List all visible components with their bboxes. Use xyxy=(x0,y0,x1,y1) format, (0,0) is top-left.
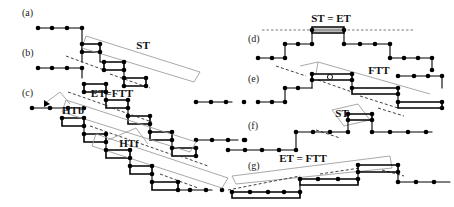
node-dot xyxy=(266,190,271,195)
node-dot xyxy=(388,56,393,61)
panel-f-dash-1 xyxy=(378,108,404,116)
node-dot xyxy=(356,177,361,182)
node-dot xyxy=(412,74,417,79)
node-dot xyxy=(370,112,375,117)
node-dot xyxy=(396,163,401,168)
node-dot xyxy=(242,138,247,143)
node-dot xyxy=(370,130,375,135)
node-dot xyxy=(396,86,401,91)
node-dot xyxy=(396,170,401,175)
panel-c-dash-6 xyxy=(180,156,208,166)
node-dot xyxy=(150,172,155,177)
op-label-st-f: ST xyxy=(335,107,349,119)
figure-svg: (a) (b) (c) (d) (e) (f) (g) xyxy=(0,0,454,207)
node-dot xyxy=(373,42,378,47)
node-dot xyxy=(170,130,175,135)
node-dot xyxy=(80,50,85,55)
node-dot xyxy=(122,68,127,73)
panel-label-c: (c) xyxy=(22,87,33,99)
node-dot xyxy=(310,78,315,83)
node-dot xyxy=(82,82,87,87)
figure-canvas: (a) (b) (c) (d) (e) (f) (g) xyxy=(0,0,454,207)
node-dot xyxy=(230,190,235,195)
node-dot xyxy=(60,116,65,121)
node-dot xyxy=(148,114,153,119)
node-dot xyxy=(243,148,248,153)
node-dot xyxy=(350,86,355,91)
node-dot xyxy=(328,130,333,135)
node-dot xyxy=(270,100,275,105)
panel-e-dash-2 xyxy=(318,80,352,92)
node-dot xyxy=(426,74,431,79)
node-dot xyxy=(310,28,315,33)
node-dot xyxy=(342,28,347,33)
panel-e-graph xyxy=(256,62,445,110)
panel-c-dash-2 xyxy=(112,108,152,122)
node-dot xyxy=(298,190,303,195)
panel-b-run xyxy=(38,68,82,78)
node-dot xyxy=(82,90,87,95)
node-dot xyxy=(176,180,181,185)
panel-c-box-6 xyxy=(62,118,84,126)
node-dot xyxy=(283,56,288,61)
node-dot xyxy=(144,76,149,81)
node-dot xyxy=(296,86,301,91)
node-dot xyxy=(296,42,301,47)
node-dot xyxy=(396,100,401,105)
panel-e-dash-1 xyxy=(276,66,306,76)
op-label-st-et-d: ST = ET xyxy=(311,12,351,24)
node-dot xyxy=(209,100,214,105)
node-dot xyxy=(396,180,401,185)
panel-c-box-5 xyxy=(172,148,196,156)
op-label-htb-c: HTb xyxy=(62,104,84,116)
node-dot xyxy=(440,100,445,105)
node-dot xyxy=(350,78,355,83)
op-label-et-ftt-c: ET=FTT xyxy=(91,87,134,99)
node-dot xyxy=(310,42,315,47)
node-dot xyxy=(316,177,321,182)
node-dot xyxy=(414,180,419,185)
node-dot xyxy=(194,154,199,159)
node-dot xyxy=(440,74,445,79)
op-label-et-ftt-g: ET = FTT xyxy=(279,152,327,164)
panel-g-graph xyxy=(228,156,450,198)
op-label-htf-c: HTf xyxy=(119,137,139,149)
node-dot xyxy=(256,100,261,105)
node-dot xyxy=(430,56,435,61)
node-dot xyxy=(128,156,133,161)
panel-label-a: (a) xyxy=(22,7,33,19)
node-dot xyxy=(388,42,393,47)
panel-e-open-node xyxy=(327,74,332,79)
node-dot xyxy=(350,72,355,77)
node-dot xyxy=(226,148,231,153)
node-dot xyxy=(48,106,53,111)
node-dot xyxy=(430,68,435,73)
node-dot xyxy=(144,84,149,89)
panel-f-box xyxy=(348,114,372,120)
node-dot xyxy=(370,118,375,123)
node-dot xyxy=(80,66,85,71)
node-dot xyxy=(170,146,175,151)
node-dot xyxy=(204,188,209,193)
node-dot xyxy=(242,100,247,105)
node-dot xyxy=(102,68,107,73)
node-dot xyxy=(128,164,133,169)
node-dot xyxy=(224,100,229,105)
node-dot xyxy=(148,130,153,135)
node-dot xyxy=(82,116,87,121)
node-dot xyxy=(388,130,393,135)
node-dot xyxy=(298,177,303,182)
node-dot xyxy=(150,164,155,169)
node-dot xyxy=(148,122,153,127)
panel-c-box-10 xyxy=(152,182,178,190)
node-dot xyxy=(402,56,407,61)
panel-g-dash-3 xyxy=(382,170,404,176)
node-dot xyxy=(36,66,41,71)
node-dot xyxy=(256,56,261,61)
node-dot xyxy=(98,42,103,47)
node-dot xyxy=(80,26,85,31)
panel-c-arrow-bracket xyxy=(44,92,70,104)
panel-c-box-9 xyxy=(130,166,152,174)
node-dot xyxy=(50,66,55,71)
node-dot xyxy=(176,188,181,193)
